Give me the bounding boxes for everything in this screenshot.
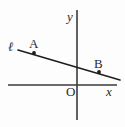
point-b-label: B: [94, 57, 103, 70]
coordinate-plane-figure: ℓ A B y x O: [0, 0, 125, 127]
y-axis-label: y: [67, 10, 73, 23]
x-axis-label: x: [106, 85, 112, 98]
point-a-label: A: [29, 37, 38, 50]
figure-canvas: [0, 0, 125, 127]
point-a-dot: [32, 51, 36, 55]
line-ell-label: ℓ: [8, 40, 13, 53]
origin-label: O: [66, 85, 75, 98]
